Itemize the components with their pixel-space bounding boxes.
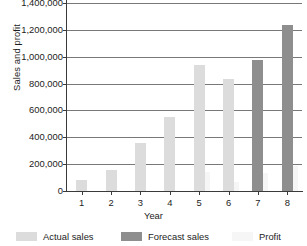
legend-label: Actual sales: [43, 231, 94, 242]
bar: [106, 170, 117, 191]
bar: [194, 65, 205, 191]
legend-item[interactable]: Forecast sales: [121, 231, 209, 242]
y-axis-tick: [63, 191, 67, 192]
bar: [135, 143, 146, 191]
legend-swatch: [16, 232, 37, 241]
x-axis-tick: [258, 191, 259, 195]
y-axis-tick-label: 0: [5, 185, 63, 196]
x-axis-tick-label: 3: [128, 197, 152, 208]
y-axis-tick: [63, 164, 67, 165]
x-axis-tick: [229, 191, 230, 195]
gridline: [67, 110, 302, 111]
bar: [282, 25, 293, 192]
y-axis-tick: [63, 110, 67, 111]
x-axis-tick: [199, 191, 200, 195]
x-axis-tick-label: 5: [187, 197, 211, 208]
plot-area: [67, 3, 302, 191]
x-axis-title: Year: [0, 210, 307, 221]
legend-item[interactable]: Profit: [232, 231, 281, 242]
y-axis-tick: [63, 84, 67, 85]
bar: [76, 180, 87, 191]
bar: [223, 79, 234, 191]
gridline: [67, 57, 302, 58]
y-axis-tick-label: 200,000: [5, 158, 63, 169]
x-axis-tick-label: 8: [275, 197, 299, 208]
legend-swatch: [121, 232, 142, 241]
gridline: [67, 137, 302, 138]
y-axis-tick: [63, 137, 67, 138]
x-axis-tick: [82, 191, 83, 195]
y-axis-tick-label: 400,000: [5, 131, 63, 142]
legend-label: Forecast sales: [148, 231, 209, 242]
legend-item[interactable]: Actual sales: [16, 231, 94, 242]
y-axis-tick-label: 1,000,000: [5, 51, 63, 62]
x-axis-tick-label: 2: [99, 197, 123, 208]
x-axis-tick-label: 1: [70, 197, 94, 208]
x-axis-tick-label: 6: [217, 197, 241, 208]
y-axis-tick-label: 1,400,000: [5, 0, 63, 8]
gridline: [67, 84, 302, 85]
gridline: [67, 164, 302, 165]
y-axis-tick-label: 1,200,000: [5, 24, 63, 35]
x-axis-tick: [287, 191, 288, 195]
x-axis-tick: [170, 191, 171, 195]
bar: [252, 60, 263, 191]
gridline: [67, 30, 302, 31]
x-axis-tick-label: 4: [158, 197, 182, 208]
bar-chart: Sales and profit 1,400,0001,200,0001,000…: [0, 0, 307, 246]
x-axis-tick: [111, 191, 112, 195]
legend-label: Profit: [259, 231, 281, 242]
y-axis-tick-label: 800,000: [5, 78, 63, 89]
x-axis-tick: [140, 191, 141, 195]
x-axis-tick-label: 7: [246, 197, 270, 208]
legend-swatch: [232, 232, 253, 241]
y-axis-tick: [63, 57, 67, 58]
gridline: [67, 3, 302, 4]
bar: [164, 117, 175, 191]
y-axis-tick-label: 600,000: [5, 104, 63, 115]
gridline: [67, 191, 302, 192]
y-axis-tick: [63, 30, 67, 31]
y-axis-tick: [63, 3, 67, 4]
chart-legend: Actual salesForecast salesProfit: [0, 231, 307, 246]
